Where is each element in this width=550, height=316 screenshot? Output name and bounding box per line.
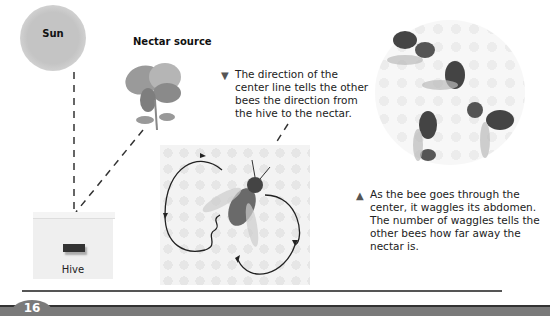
waggle-caption-text: As the bee goes through the center, it w… — [370, 188, 540, 252]
triangle-down-icon: ▼ — [221, 69, 229, 82]
footer-bar — [0, 305, 550, 316]
triangle-up-icon: ▲ — [356, 189, 364, 202]
bees-cluster-illustration — [380, 10, 530, 170]
hive-entrance — [63, 244, 85, 252]
waggle-caption: ▲ As the bee goes through the center, it… — [370, 188, 540, 253]
direction-caption-text: The direction of the center line tells t… — [235, 68, 368, 119]
divider-rule — [22, 290, 502, 292]
waggle-dance-diagram — [160, 145, 310, 285]
hive-label: Hive — [33, 264, 113, 275]
hive-lid — [33, 212, 115, 219]
direction-caption: ▼ The direction of the center line tells… — [235, 68, 370, 120]
